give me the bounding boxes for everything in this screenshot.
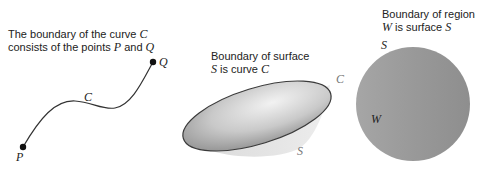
label-point-p: P (16, 150, 23, 165)
surface-caption: Boundary of surface S is curve C (211, 50, 309, 76)
caption-math-s: S (445, 20, 451, 34)
caption-math-c: C (139, 27, 147, 41)
label-sphere-s: S (381, 38, 387, 53)
curve-caption: The boundary of the curve C consists of … (8, 28, 154, 54)
sphere-surface (356, 47, 470, 161)
surface-panel (175, 67, 339, 166)
caption-text: The boundary of the curve (8, 28, 139, 40)
caption-text: Boundary of region (382, 8, 475, 20)
caption-math-q: Q (146, 40, 155, 54)
label-surface-s: S (297, 144, 303, 159)
caption-text: consists of the points (8, 41, 114, 53)
label-region-w: W (371, 112, 381, 127)
caption-text: Boundary of surface (211, 50, 309, 62)
caption-text: is curve (217, 63, 261, 75)
label-point-q: Q (159, 55, 168, 70)
point-q-dot (150, 59, 156, 65)
caption-math-w: W (382, 20, 392, 34)
caption-text: and (121, 41, 145, 53)
caption-text: is surface (392, 21, 445, 33)
region-panel (356, 47, 470, 161)
caption-math-c: C (261, 62, 269, 76)
region-caption: Boundary of region W is surface S (382, 8, 475, 34)
label-rim-c: C (336, 72, 344, 87)
label-curve-c: C (84, 90, 92, 105)
